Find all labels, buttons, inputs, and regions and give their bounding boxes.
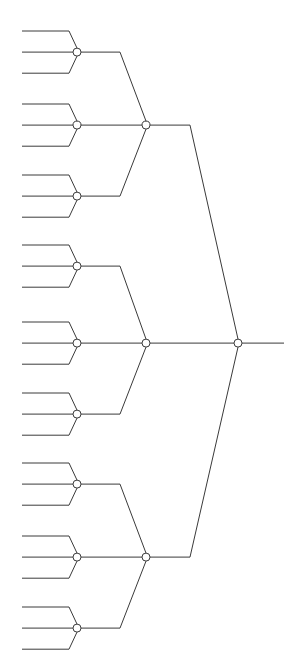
leaf-edge xyxy=(22,56,77,73)
tree-node-level2 xyxy=(142,339,150,347)
tree-node-level1 xyxy=(73,262,81,270)
leaf-edge xyxy=(22,463,77,480)
tree-edges-group xyxy=(22,31,284,649)
leaf-edge xyxy=(22,175,77,192)
tree-node-level1 xyxy=(73,192,81,200)
leaf-edge xyxy=(22,393,77,410)
leaf-edge xyxy=(22,632,77,649)
branch-edge-level2 xyxy=(150,125,238,339)
branch-edge-level1 xyxy=(81,347,146,414)
tree-node-level1 xyxy=(73,480,81,488)
leaf-edge xyxy=(22,322,77,339)
leaf-edge xyxy=(22,200,77,217)
leaf-edge xyxy=(22,347,77,364)
leaf-edge xyxy=(22,104,77,121)
leaf-edge xyxy=(22,561,77,578)
leaf-edge xyxy=(22,488,77,505)
leaf-edge xyxy=(22,270,77,287)
tree-diagram-canvas xyxy=(0,0,293,665)
tree-figure xyxy=(0,0,293,665)
branch-edge-level1 xyxy=(81,52,146,121)
branch-edge-level1 xyxy=(81,561,146,628)
leaf-edge xyxy=(22,418,77,435)
branch-edge-level2 xyxy=(150,347,238,557)
branch-edge-level1 xyxy=(81,266,146,339)
tree-node-level1 xyxy=(73,553,81,561)
tree-node-level1 xyxy=(73,48,81,56)
branch-edge-level1 xyxy=(81,129,146,196)
tree-node-level2 xyxy=(142,121,150,129)
tree-node-root xyxy=(234,339,242,347)
tree-node-level2 xyxy=(142,553,150,561)
tree-node-level1 xyxy=(73,339,81,347)
leaf-edge xyxy=(22,31,77,48)
branch-edge-level1 xyxy=(81,484,146,553)
leaf-edge xyxy=(22,129,77,146)
leaf-edge xyxy=(22,536,77,553)
tree-nodes-group xyxy=(73,48,242,632)
tree-node-level1 xyxy=(73,624,81,632)
tree-node-level1 xyxy=(73,121,81,129)
leaf-edge xyxy=(22,245,77,262)
tree-node-level1 xyxy=(73,410,81,418)
leaf-edge xyxy=(22,607,77,624)
